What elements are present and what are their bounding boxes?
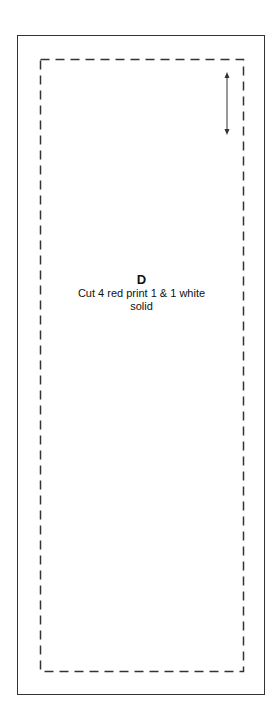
pattern-diagram xyxy=(0,0,279,726)
seam-line xyxy=(41,60,244,672)
cut-instruction-line2: solid xyxy=(40,300,243,313)
piece-letter: D xyxy=(40,272,243,287)
grainline-arrow-icon xyxy=(225,72,230,135)
cut-instruction-line1: Cut 4 red print 1 & 1 white xyxy=(40,287,243,300)
piece-label: D Cut 4 red print 1 & 1 white solid xyxy=(40,272,243,313)
